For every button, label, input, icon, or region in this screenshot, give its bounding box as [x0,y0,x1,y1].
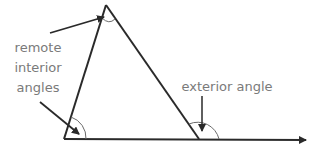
exterior-angle-diagram: remote interior angles exterior angle [0,0,316,156]
remote-label-line1: remote [15,40,62,55]
exterior-angle-label: exterior angle [181,79,272,94]
extended-baseline [64,139,306,140]
apex-angle-arc [102,18,115,22]
triangle-right-side [106,5,199,139]
pointer-arrow-apex [50,17,104,33]
triangle-left-side [64,5,106,139]
diagram-svg: remote interior angles exterior angle [0,0,316,156]
bottom-left-angle-arc [71,117,86,139]
remote-label-line3: angles [17,80,60,95]
remote-label-line2: interior [14,60,62,75]
